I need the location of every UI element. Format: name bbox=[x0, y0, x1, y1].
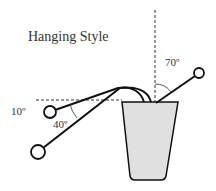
right-stem bbox=[156, 76, 195, 103]
angle-arc-40 bbox=[70, 104, 77, 118]
angle-arc-70 bbox=[155, 84, 171, 92]
angle-label-70: 70º bbox=[165, 56, 180, 68]
right-stem-leaf bbox=[194, 68, 204, 78]
lower-branch-leaf bbox=[31, 145, 45, 159]
diagram-title: Hanging Style bbox=[28, 29, 109, 44]
plant-pot bbox=[122, 102, 178, 180]
angle-label-10: 10º bbox=[11, 105, 26, 117]
angle-label-40: 40º bbox=[53, 118, 68, 130]
upper-branch-leaf bbox=[44, 106, 56, 118]
hanging-style-diagram: Hanging Style 70º 10º 40º bbox=[0, 0, 216, 191]
